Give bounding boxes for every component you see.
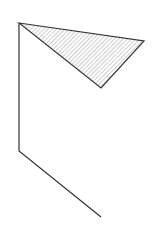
diagram-canvas <box>0 0 159 244</box>
hatched-triangle <box>19 23 144 88</box>
